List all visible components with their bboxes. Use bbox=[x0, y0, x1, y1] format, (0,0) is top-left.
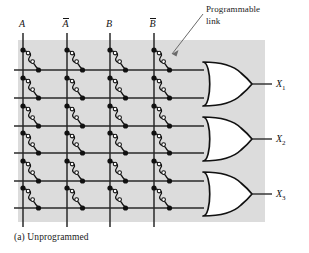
link-target-dot bbox=[80, 123, 85, 128]
input-label-B-text: B bbox=[106, 18, 112, 29]
figure-caption: (a) Unprogrammed bbox=[14, 232, 89, 242]
programmable-link-annotation: Programmable link bbox=[206, 4, 302, 27]
link-target-dot bbox=[167, 178, 172, 183]
output-label-X3: X3 bbox=[276, 188, 286, 202]
figure-canvas: A A B B X1 X2 X3 Programmable link (a) U… bbox=[0, 0, 309, 253]
link-target-dot bbox=[36, 178, 41, 183]
link-target-dot bbox=[123, 67, 128, 72]
input-label-A-text: A bbox=[19, 18, 25, 29]
input-label-A-bar: A bbox=[63, 18, 69, 30]
link-target-dot bbox=[167, 205, 172, 210]
input-label-B-bar: B bbox=[150, 18, 156, 30]
annotation-line-2: link bbox=[206, 16, 220, 26]
link-target-dot bbox=[123, 205, 128, 210]
output-label-X3-sub: 3 bbox=[282, 194, 286, 202]
output-label-X1: X1 bbox=[276, 78, 286, 92]
link-target-dot bbox=[167, 123, 172, 128]
input-label-A: A bbox=[19, 18, 25, 29]
link-target-dot bbox=[36, 95, 41, 100]
output-label-X2: X2 bbox=[276, 133, 286, 147]
pld-array-diagram bbox=[0, 0, 309, 253]
link-target-dot bbox=[123, 95, 128, 100]
input-label-A-bar-text: A bbox=[63, 18, 69, 30]
link-target-dot bbox=[167, 95, 172, 100]
link-target-dot bbox=[80, 178, 85, 183]
link-target-dot bbox=[36, 150, 41, 155]
output-label-X1-sub: 1 bbox=[282, 84, 286, 92]
input-label-B-bar-text: B bbox=[150, 18, 156, 30]
link-target-dot bbox=[36, 205, 41, 210]
input-label-B: B bbox=[106, 18, 112, 29]
link-target-dot bbox=[80, 150, 85, 155]
link-target-dot bbox=[36, 67, 41, 72]
link-target-dot bbox=[123, 150, 128, 155]
link-target-dot bbox=[80, 67, 85, 72]
link-target-dot bbox=[167, 67, 172, 72]
link-target-dot bbox=[167, 150, 172, 155]
link-target-dot bbox=[80, 95, 85, 100]
link-target-dot bbox=[80, 205, 85, 210]
link-target-dot bbox=[123, 178, 128, 183]
annotation-line-1: Programmable bbox=[206, 4, 260, 14]
link-target-dot bbox=[36, 123, 41, 128]
link-target-dot bbox=[123, 123, 128, 128]
output-label-X2-sub: 2 bbox=[282, 139, 286, 147]
